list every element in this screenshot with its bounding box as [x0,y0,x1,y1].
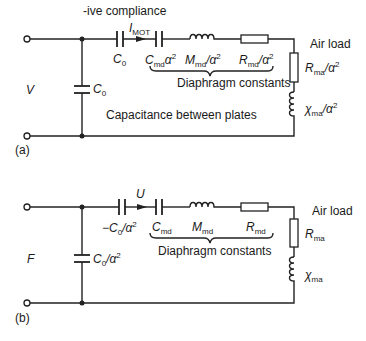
resistor-rma [290,219,298,247]
inductor-mmd [190,203,217,208]
terminal-top-a [24,36,30,42]
current-label-b: U [136,188,145,200]
cmd-label-a: Cmdα2 [145,53,176,69]
figure-tag-a: (a) [15,144,30,156]
shunt-cap-label-b: C0/α2 [93,252,121,268]
rmd-label-b: Rmd [246,221,266,236]
terminal-top-b [24,204,30,210]
rmd-label-a: Rmd/α2 [239,53,273,69]
circuit-diagram-svg [0,0,366,341]
series-cap-label-b: −C0/α2 [102,221,137,237]
xma-label-b: χma [305,269,323,284]
diaphragm-constants-label-b: Diaphragm constants [158,245,271,257]
resistor-rmd [241,35,268,43]
figure-tag-b: (b) [15,312,30,324]
terminal-bottom-b [24,300,30,306]
inductor-xma [290,257,295,284]
negative-compliance-label: -ive compliance [83,5,166,17]
series-cap-label-a: C0 [113,53,126,68]
cmd-label-b: Cmd [152,221,172,236]
diaphragm-constants-label-a: Diaphragm constants [177,77,290,89]
resistor-rma [290,53,298,82]
terminal-bottom-a [24,133,30,139]
rma-label-b: Rma [305,228,325,243]
current-arrow-icon [137,204,147,210]
air-load-label-b: Air load [312,205,353,217]
input-voltage-label: V [26,84,34,96]
rma-label-a: Rma/α2 [305,61,339,77]
inductor-xma [290,92,295,119]
inductor-mmd [190,35,217,40]
capacitance-between-plates-label: Capacitance between plates [106,109,257,121]
resistor-rmd [241,203,268,211]
current-label-a: IMOT [129,22,150,37]
input-force-label: F [27,253,34,265]
shunt-cap-label-a: C0 [93,83,106,98]
mmd-label-a: Mmd/α2 [185,53,221,69]
air-load-label-a: Air load [310,38,351,50]
xma-label-a: χma/α2 [305,102,337,118]
mmd-label-b: Mmd [192,221,213,236]
